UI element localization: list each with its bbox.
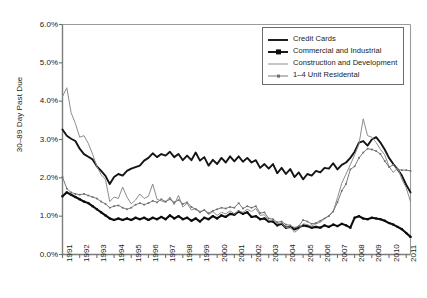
- x-tick-label: 2000: [221, 244, 229, 262]
- x-tick-label: 1996: [152, 244, 160, 262]
- x-tick-label: 2006: [324, 244, 332, 262]
- x-tick-label: 1998: [186, 244, 194, 262]
- legend-label: Construction and Development: [293, 58, 397, 67]
- legend-label: 1–4 Unit Residental: [293, 70, 359, 79]
- x-tick-label: 1991: [66, 244, 74, 262]
- legend-swatch-icon: [267, 32, 289, 44]
- x-tick-label: 1993: [100, 244, 108, 262]
- x-tick-label: 2011: [410, 245, 418, 262]
- chart-figure: 30–89 Day Past Due 0.0%1.0%2.0%3.0%4.0%5…: [0, 0, 427, 298]
- x-tick-label: 1999: [203, 244, 211, 262]
- x-tick-label: 1992: [83, 244, 91, 262]
- x-tick-label: 1997: [169, 244, 177, 262]
- x-tick-label: 2002: [255, 244, 263, 262]
- x-tick-label: 2005: [307, 244, 315, 262]
- x-tick-label: 1994: [118, 244, 126, 262]
- x-tick-label: 2007: [341, 244, 349, 262]
- legend-item-1: Commercial and Industrial: [267, 44, 397, 56]
- legend-swatch-icon: [267, 44, 289, 56]
- legend-item-2: Construction and Development: [267, 56, 397, 68]
- legend-label: Credit Cards: [293, 34, 336, 43]
- x-tick-label: 2001: [238, 244, 246, 262]
- x-tick-label: 2003: [272, 244, 280, 262]
- legend-label: Commercial and Industrial: [293, 46, 381, 55]
- legend-item-3: 1–4 Unit Residental: [267, 68, 397, 80]
- x-tick-label: 2010: [393, 244, 401, 262]
- x-tick-label: 2004: [289, 244, 297, 262]
- legend-swatch-icon: [267, 56, 289, 68]
- x-tick-label: 1995: [135, 244, 143, 262]
- legend-swatch-icon: [267, 68, 289, 80]
- legend-item-0: Credit Cards: [267, 32, 397, 44]
- x-tick-label: 2009: [375, 244, 383, 262]
- x-tick-label: 2008: [358, 244, 366, 262]
- chart-legend: Credit CardsCommercial and IndustrialCon…: [262, 27, 404, 85]
